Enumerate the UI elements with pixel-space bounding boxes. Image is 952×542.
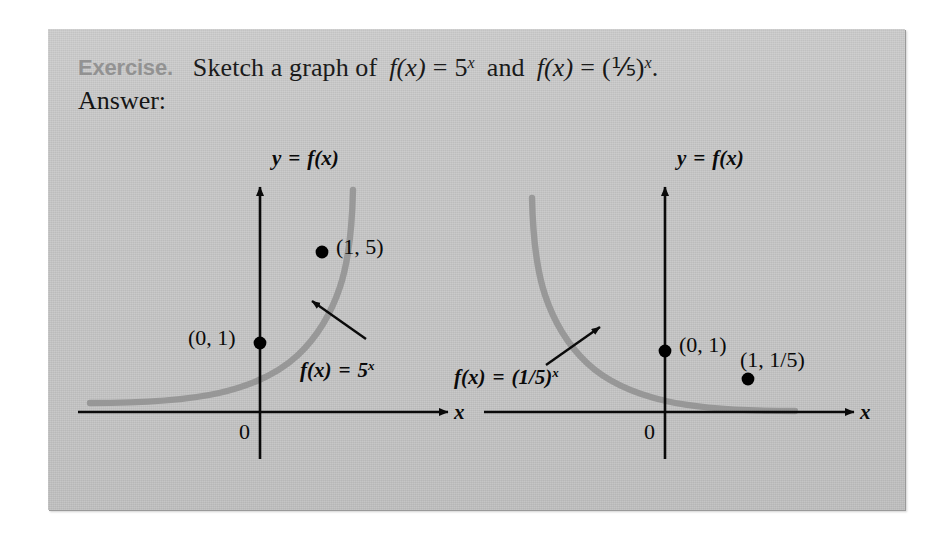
graphs-svg — [48, 29, 905, 510]
left-fn-annotation-lhs: f(x) — [300, 358, 331, 382]
right-annotation-arrow — [546, 327, 600, 365]
graph-stage: y=f(x) x 0 (0, 1) (1, 5) f(x)=5x y=f(x) … — [48, 29, 905, 510]
right-graph-group — [484, 187, 854, 459]
left-point-1-5 — [316, 246, 329, 259]
left-x-axis-label: x — [454, 400, 465, 425]
right-curve-decay — [532, 198, 795, 411]
left-point-label-1-5: (1, 5) — [336, 234, 384, 260]
right-function-annotation: f(x)=(1/5)x — [454, 365, 559, 390]
left-point-0-1 — [254, 337, 267, 350]
right-fn-annotation-base: (1/5) — [511, 365, 552, 389]
left-fn-annotation-exponent: x — [368, 358, 375, 373]
left-y-axis-label-equals: = — [281, 146, 307, 170]
right-point-0-1 — [659, 345, 672, 358]
right-fn-annotation-lhs: f(x) — [454, 365, 485, 389]
left-y-axis-label-y: y — [272, 146, 281, 170]
right-origin-label: 0 — [644, 419, 655, 445]
right-y-axis-label-y: y — [677, 146, 686, 170]
right-point-1-one-fifth — [742, 373, 755, 386]
left-point-label-0-1: (0, 1) — [188, 325, 236, 351]
right-x-axis-label: x — [860, 400, 871, 425]
left-function-annotation: f(x)=5x — [300, 358, 374, 383]
right-point-label-0-1: (0, 1) — [679, 332, 727, 358]
left-fn-annotation-equals: = — [331, 358, 357, 382]
left-graph-group — [78, 187, 448, 459]
left-y-axis-label-fx: f(x) — [307, 146, 338, 170]
left-fn-annotation-base: 5 — [357, 358, 368, 382]
left-origin-label: 0 — [239, 419, 250, 445]
screenshot-root: Exercise.Sketch a graph off(x)=5xandf(x)… — [0, 0, 952, 542]
right-fn-annotation-exponent: x — [552, 365, 559, 380]
right-y-axis-label-equals: = — [686, 146, 712, 170]
right-fn-annotation-equals: = — [485, 365, 511, 389]
right-point-label-1-one-fifth: (1, 1/5) — [740, 347, 805, 373]
figure-panel: Exercise.Sketch a graph off(x)=5xandf(x)… — [48, 29, 905, 510]
left-y-axis-label: y=f(x) — [272, 146, 339, 171]
right-y-axis-label-fx: f(x) — [712, 146, 743, 170]
right-y-axis-label: y=f(x) — [677, 146, 744, 171]
